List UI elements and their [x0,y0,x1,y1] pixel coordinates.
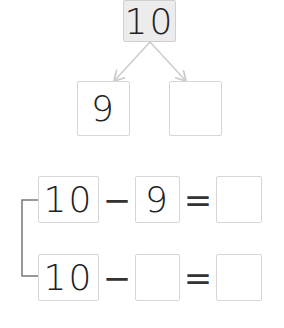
eq2-subtrahend-box[interactable] [135,254,180,301]
eq2-minus-sign: − [102,254,132,301]
part-left-box[interactable]: 9 [77,81,130,136]
eq1-equals-sign: = [183,176,213,223]
eq1-subtrahend-box[interactable]: 9 [135,176,180,223]
eq2-equals-sign: = [183,254,213,301]
eq2-result-box[interactable] [216,254,262,301]
eq1-minus-sign: − [102,176,132,223]
whole-box: 10 [123,0,176,42]
eq1-minuend-box: 10 [38,176,99,223]
arrow-right-icon [150,42,185,80]
part-right-box[interactable] [169,81,222,136]
eq2-minuend-box: 10 [38,254,99,301]
eq1-result-box[interactable] [216,176,262,223]
equation-bracket [22,200,38,276]
arrow-left-icon [115,42,150,80]
